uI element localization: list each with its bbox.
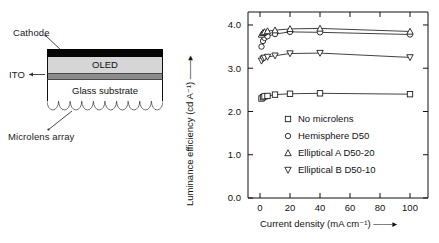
marker-square — [272, 92, 277, 97]
series-no-microlens — [259, 91, 413, 102]
x-tick-label: 80 — [375, 202, 386, 213]
layer-ito — [47, 73, 163, 80]
microlens — [93, 101, 105, 110]
chart-legend: No microlensHemisphere D50Elliptical A D… — [285, 113, 376, 175]
y-tick-label: 4.0 — [228, 19, 241, 30]
device-schematic: Cathode ITO Microlens array OLED Glass s… — [0, 0, 196, 243]
marker-circle — [285, 133, 290, 138]
x-tick-label: 100 — [402, 202, 418, 213]
x-tick-label: 20 — [285, 202, 296, 213]
microlens — [117, 101, 129, 110]
y-axis-label: Luminance efficiency (cd A⁻¹) ——▸ — [184, 26, 195, 206]
layer-oled-label: OLED — [92, 60, 118, 70]
series-elliptical-a-d50-20 — [258, 25, 413, 37]
series-line — [262, 93, 411, 98]
y-tick-label: 2.0 — [228, 106, 241, 117]
microlens — [128, 101, 140, 110]
x-tick-label: 0 — [257, 202, 262, 213]
series-elliptical-b-d50-10 — [258, 50, 413, 64]
microlens — [70, 101, 82, 110]
y-tick-label: 1.0 — [228, 149, 241, 160]
layer-stack: OLED Glass substrate — [47, 49, 163, 101]
marker-square — [407, 91, 412, 96]
layer-oled: OLED — [47, 57, 163, 73]
layer-glass-substrate: Glass substrate — [47, 80, 163, 101]
layer-cathode — [47, 49, 163, 57]
y-axis-arrow: ——▸ — [184, 55, 195, 79]
luminance-efficiency-chart: Luminance efficiency (cd A⁻¹) ——▸ Curren… — [196, 0, 439, 243]
microlens — [151, 101, 163, 110]
layer-glass-label: Glass substrate — [72, 86, 138, 96]
legend-label: Elliptical A D50-20 — [298, 147, 375, 158]
marker-triangle-down — [285, 167, 291, 173]
microlens — [140, 101, 152, 110]
microlens — [105, 101, 117, 110]
microlens — [47, 101, 59, 110]
y-tick-label: 0.0 — [228, 192, 241, 203]
series-line — [262, 32, 411, 47]
marker-square — [317, 91, 322, 96]
leader-lines — [0, 0, 196, 243]
data-series — [258, 25, 413, 101]
y-axis-label-text: Luminance efficiency (cd A⁻¹) — [184, 82, 195, 206]
marker-circle — [259, 44, 264, 49]
y-tick-label: 3.0 — [228, 63, 241, 74]
marker-triangle-up — [285, 150, 291, 156]
microlens-array-shape — [47, 101, 163, 113]
legend-label: No microlens — [298, 113, 354, 124]
series-hemisphere-d50 — [259, 29, 413, 49]
plot-canvas: 0.01.02.03.04.0020406080100 No microlens… — [196, 0, 439, 243]
microlens — [82, 101, 94, 110]
x-tick-label: 60 — [345, 202, 356, 213]
marker-square — [287, 91, 292, 96]
microlens — [59, 101, 71, 110]
figure: Cathode ITO Microlens array OLED Glass s… — [0, 0, 439, 243]
marker-square — [285, 116, 290, 121]
x-tick-label: 40 — [315, 202, 326, 213]
marker-square — [265, 93, 270, 98]
legend-label: Hemisphere D50 — [298, 130, 369, 141]
legend-label: Elliptical B D50-10 — [298, 164, 376, 175]
series-line — [262, 53, 411, 61]
